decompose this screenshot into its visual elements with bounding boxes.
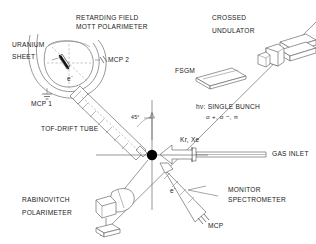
rabinovitch-polarimeter-body <box>96 160 148 237</box>
mcp-1-symbol <box>42 88 52 99</box>
monitor-spectrometer-body <box>160 163 218 224</box>
diagram-vector-layer: .ln{fill:none;stroke:#6b6b6b;stroke-widt… <box>0 0 316 244</box>
mcp-2-label: MCP 2 <box>108 56 129 65</box>
monitor-spectrometer-label-line2: SPECTROMETER <box>228 196 286 205</box>
angle-45-label: 45° <box>131 113 140 122</box>
apparatus-diagram: .ln{fill:none;stroke:#6b6b6b;stroke-widt… <box>0 0 316 244</box>
gas-species-label: Kr, Xe <box>180 136 199 145</box>
crossed-undulator-label-line2: UNDULATOR <box>212 27 255 36</box>
hemisphere-electron-label: e- <box>67 72 73 84</box>
rabinovitch-polarimeter-label-line1: RABINOVITCH <box>22 196 70 205</box>
uranium-sheet-label-line1: URANIUM <box>12 41 45 50</box>
crossed-undulator-body <box>258 34 316 67</box>
photon-beam-label-line1: hν: SINGLE BUNCH <box>196 103 260 112</box>
mott-polarimeter-label-line2: MOTT POLARIMETER <box>76 23 148 32</box>
monitor-electron-label: e- <box>170 184 176 196</box>
uranium-sheet-shape <box>59 54 70 69</box>
fsgm-label: FSGM <box>175 67 195 76</box>
fsgm-grating-plate <box>196 68 246 89</box>
photon-beam-polarization-label: σ +, σ −, π <box>206 113 238 122</box>
tof-drift-tube-body <box>70 86 147 160</box>
mcp-1-label: MCP 1 <box>31 100 52 109</box>
monitor-spectrometer-label-line1: MONITOR <box>228 186 261 195</box>
mcp-2-hatch-marks <box>95 56 107 63</box>
rabinovitch-polarimeter-label-line2: POLARIMETER <box>22 209 72 218</box>
crossed-undulator-label-line1: CROSSED <box>212 14 246 23</box>
gas-inlet-label: GAS INLET <box>272 150 309 159</box>
tof-drift-tube-label: TOF-DRIFT TUBE <box>41 125 98 134</box>
interaction-point-marker <box>147 150 157 160</box>
uranium-sheet-label-line2: SHEET <box>12 53 35 62</box>
mott-polarimeter-label-line1: RETARDING FIELD <box>76 14 139 23</box>
monitor-mcp-label: MCP <box>208 222 223 231</box>
uranium-sheet-leader <box>52 58 58 60</box>
